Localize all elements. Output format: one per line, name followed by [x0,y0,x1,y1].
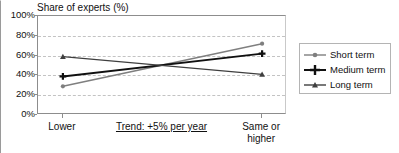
data-point-marker [259,50,266,57]
data-point-marker [61,84,65,88]
y-axis-tick-label: 20% [1,88,35,99]
data-point-marker [260,42,264,46]
chart-legend: Short termMedium termLong term [299,43,391,94]
y-axis-tick-mark [34,94,37,95]
legend-marker-icon [303,78,327,92]
y-axis-tick-mark [34,114,37,115]
x-axis-tick-label-line: higher [242,133,280,145]
y-axis-tick-label: 100% [1,9,35,20]
y-axis-tick-mark [34,74,37,75]
y-axis-title: Share of experts (%) [37,2,129,14]
data-point-marker [60,73,67,80]
legend-item-label: Short term [330,49,374,60]
chart-figure: Share of experts (%) 100%80%60%40%20%0% … [0,0,399,153]
x-axis-tick-label-line: Lower [48,121,75,133]
y-axis-tick-mark [34,35,37,36]
legend-item-label: Long term [330,79,373,90]
y-axis-tick-label: 80% [1,29,35,40]
x-axis-tick-mark [62,114,63,118]
x-axis-note: Trend: +5% per year [116,121,207,133]
y-axis-tick-mark [34,55,37,56]
y-axis-tick-label: 0% [1,108,35,119]
y-axis-tick-labels: 100%80%60%40%20%0% [1,15,35,114]
y-axis-tick-label: 60% [1,49,35,60]
y-axis-tick-mark [34,15,37,16]
legend-item[interactable]: Short term [300,47,390,62]
x-axis-tick-label: Lower [48,121,75,133]
legend-item[interactable]: Long term [300,77,390,92]
x-axis-tick-label: Same orhigher [242,121,280,145]
legend-item-label: Medium term [330,64,385,75]
series-line [63,57,262,75]
x-axis-tick-mark [261,114,262,118]
y-axis-tick-label: 40% [1,68,35,79]
plot-area [37,15,286,114]
legend-item[interactable]: Medium term [300,62,390,77]
legend-marker-icon [303,48,327,62]
legend-marker-icon [303,63,327,77]
x-axis-tick-label-line: Same or [242,121,280,133]
series-lines [38,16,287,115]
